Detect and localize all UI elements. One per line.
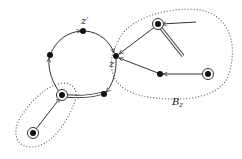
node-far-right [203, 69, 214, 80]
edge-lone-to-hub [33, 98, 60, 133]
label-region-b: Bz [171, 96, 183, 109]
edge-external-to-topright [162, 22, 196, 24]
node-hub-bottom-left [57, 90, 68, 101]
node-z-prime [80, 28, 86, 34]
node-left [47, 52, 53, 58]
node-top-right [153, 19, 164, 30]
label-z: z [108, 58, 115, 69]
edge-topright-to-z [119, 26, 156, 54]
arc-left-to-zprime [50, 31, 81, 55]
node-bottom-circle [101, 91, 107, 97]
arc-hub-to-left [49, 58, 60, 93]
region-b-z [111, 9, 232, 99]
graph-diagram: z′ z Bz [0, 0, 242, 159]
node-lone-bottom-left [28, 128, 39, 139]
arc-zprime-to-z [85, 31, 114, 53]
edge-midright-to-z [119, 58, 158, 73]
label-z-prime: z′ [80, 15, 89, 26]
node-mid-right [157, 71, 163, 77]
